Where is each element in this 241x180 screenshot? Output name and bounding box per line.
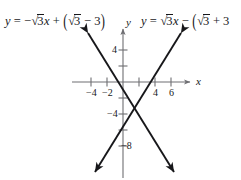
line-positive-slope (95, 33, 181, 172)
coordinate-plot (0, 0, 241, 180)
x-tick-label-4: 4 (153, 88, 158, 98)
y-axis-name: y (126, 17, 131, 28)
y-tick-label-4: 4 (112, 45, 117, 55)
x-tick-label-6: 6 (169, 88, 174, 98)
y-tick-label--8: −8 (121, 141, 132, 151)
x-tick-label--2: −2 (102, 88, 113, 98)
x-axis-name: x (196, 76, 201, 87)
line-negative-slope (88, 33, 174, 172)
x-tick-label--4: −4 (86, 88, 97, 98)
y-tick-label--4: −4 (107, 109, 118, 119)
figure-canvas: y = −√3x + (√3 − 3) y = √3x − (√3 + 3 (0, 0, 241, 180)
